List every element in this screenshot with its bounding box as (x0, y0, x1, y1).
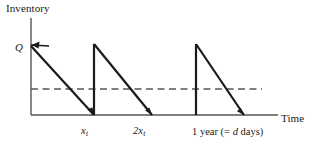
x-tick-xt-subscript: t (86, 129, 88, 138)
sawtooth-3-depletion (196, 44, 244, 115)
y-axis-title: Inventory (6, 3, 50, 14)
order-quantity-label: Q (15, 42, 23, 53)
depletion-3-arrowhead-icon (237, 108, 244, 115)
one-year-prefix: 1 year (= (192, 126, 233, 137)
one-year-suffix: days) (238, 126, 263, 137)
sawtooth-2-depletion (94, 44, 152, 115)
chart-canvas (0, 0, 316, 154)
x-tick-xt-base: x (81, 125, 86, 136)
x-axis-title: Time (281, 113, 304, 124)
sawtooth-1-depletion (31, 46, 94, 115)
x-tick-label-xt: xt (81, 126, 88, 137)
x-tick-2xt-subscript: t (143, 129, 145, 138)
x-tick-label-2xt: 2xt (133, 126, 145, 137)
inventory-sawtooth-figure: Inventory Time Q xt 2xt 1 year (= d days… (0, 0, 316, 154)
x-tick-2xt-base: 2x (133, 125, 143, 136)
x-tick-label-one-year: 1 year (= d days) (192, 127, 263, 138)
